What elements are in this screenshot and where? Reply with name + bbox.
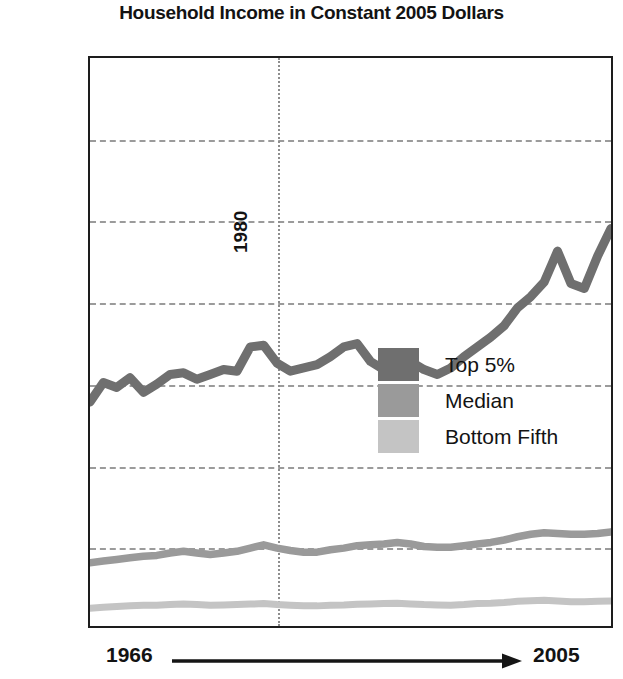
legend-swatch bbox=[378, 348, 419, 381]
legend-item: Bottom Fifth bbox=[378, 418, 558, 454]
legend-item: Median bbox=[378, 382, 558, 418]
legend-label: Median bbox=[445, 390, 514, 411]
series-line bbox=[90, 600, 611, 608]
legend-swatch bbox=[378, 384, 419, 417]
legend-label: Bottom Fifth bbox=[445, 426, 558, 447]
x-axis-start-label: 1966 bbox=[106, 643, 153, 667]
x-axis-end-label: 2005 bbox=[533, 643, 580, 667]
legend-swatch bbox=[378, 420, 419, 453]
chart-figure: Household Income in Constant 2005 Dollar… bbox=[0, 0, 623, 679]
series-line bbox=[90, 532, 611, 563]
x-axis-arrow-icon bbox=[172, 651, 522, 671]
marker-1980-label: 1980 bbox=[230, 211, 252, 253]
plot-area bbox=[88, 56, 613, 628]
series-lines bbox=[90, 58, 611, 626]
chart-legend: Top 5%MedianBottom Fifth bbox=[378, 346, 558, 454]
legend-label: Top 5% bbox=[445, 354, 515, 375]
chart-title: Household Income in Constant 2005 Dollar… bbox=[0, 2, 623, 24]
legend-item: Top 5% bbox=[378, 346, 558, 382]
